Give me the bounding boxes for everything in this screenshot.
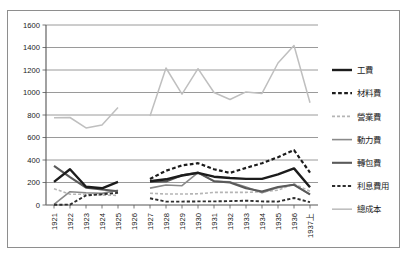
x-axis-tick-label: 1921 bbox=[50, 213, 59, 230]
y-axis-tick-label: 0 bbox=[36, 201, 40, 210]
x-axis-tick-label: 1937上 bbox=[306, 213, 315, 238]
x-axis-tick-label: 1935 bbox=[274, 213, 283, 230]
x-axis-tick-label: 1934 bbox=[258, 213, 267, 230]
x-axis-tick-label: 1931 bbox=[210, 213, 219, 230]
y-axis-tick-label: 600 bbox=[27, 133, 40, 142]
x-axis-tick-label: 1929 bbox=[178, 213, 187, 230]
x-axis-tick-label: 1925 bbox=[114, 213, 123, 230]
y-axis-tick-label: 800 bbox=[27, 111, 40, 120]
legend-label: 材料費 bbox=[357, 88, 381, 98]
chart-container: 0200400600800100012001400160019211922192… bbox=[0, 0, 409, 259]
x-axis-tick-label: 1922 bbox=[66, 213, 75, 230]
x-axis-tick-label: 1924 bbox=[98, 213, 107, 230]
line-chart: 0200400600800100012001400160019211922192… bbox=[0, 0, 409, 259]
y-axis-tick-label: 200 bbox=[27, 178, 40, 187]
legend-label: 轉包費 bbox=[357, 158, 381, 168]
y-axis-tick-label: 1000 bbox=[23, 88, 40, 97]
x-axis-tick-label: 1930 bbox=[194, 213, 203, 230]
legend-label: 營業費 bbox=[357, 112, 381, 122]
legend-label: 動力費 bbox=[357, 135, 381, 145]
y-axis-tick-label: 1600 bbox=[23, 21, 40, 30]
x-axis-tick-label: 1928 bbox=[162, 213, 171, 230]
x-axis-tick-label: 1932 bbox=[226, 213, 235, 230]
y-axis-tick-label: 1400 bbox=[23, 43, 40, 52]
x-axis-tick-label: 1933 bbox=[242, 213, 251, 230]
legend-label: 工費 bbox=[357, 65, 373, 75]
x-axis-tick-label: 1926 bbox=[130, 213, 139, 230]
legend-label: 利息費用 bbox=[357, 181, 389, 191]
y-axis-tick-label: 400 bbox=[27, 156, 40, 165]
legend-label: 總成本 bbox=[357, 204, 382, 214]
x-axis-tick-label: 1923 bbox=[82, 213, 91, 230]
y-axis-tick-label: 1200 bbox=[23, 66, 40, 75]
x-axis-tick-label: 1927 bbox=[146, 213, 155, 230]
x-axis-tick-label: 1936 bbox=[290, 213, 299, 230]
